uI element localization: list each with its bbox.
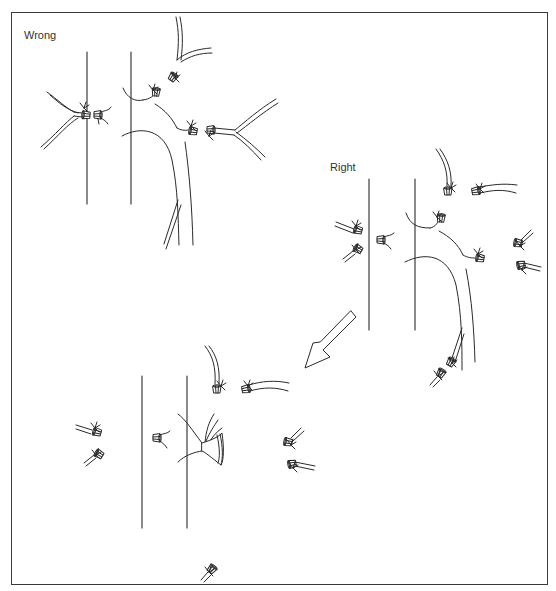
diagram-drawing [0,0,556,591]
panel-wrong [41,17,278,249]
surgical-ligation-diagram: Wrong Right [0,0,556,591]
panel-result [76,346,315,582]
panel-right [335,149,541,387]
transition-arrow [305,311,356,368]
